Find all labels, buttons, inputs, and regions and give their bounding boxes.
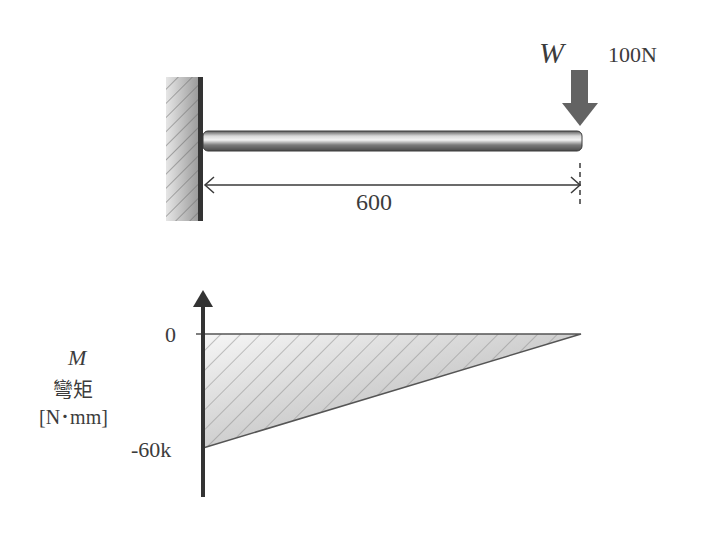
moment-symbol: M [68, 345, 86, 371]
load-symbol: W [539, 36, 564, 70]
tick-min: -60k [131, 437, 171, 463]
fixed-wall [166, 77, 203, 221]
tick-zero: 0 [165, 322, 176, 348]
load-arrow-icon [562, 70, 598, 126]
moment-name: 彎矩 [53, 374, 93, 403]
cantilever-diagram [0, 0, 720, 537]
load-value: 100N [608, 42, 657, 68]
length-label: 600 [356, 189, 392, 216]
moment-unit: [N･mm] [39, 401, 108, 430]
axis-arrow-icon [193, 290, 213, 307]
beam [203, 131, 582, 151]
dimension-line [205, 163, 580, 207]
moment-diagram [190, 290, 590, 497]
